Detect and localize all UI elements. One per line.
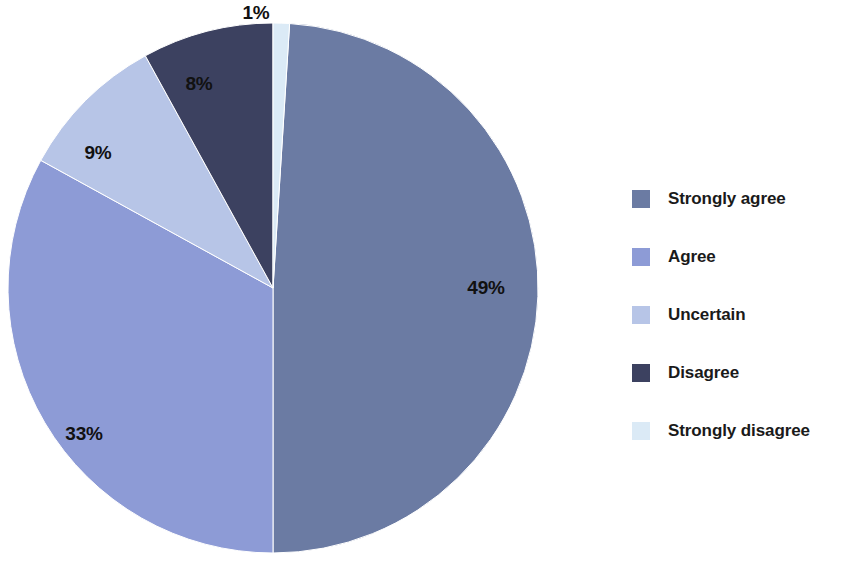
legend-swatch-icon — [632, 364, 650, 382]
pie-slices-group — [8, 23, 538, 553]
legend-item[interactable]: Uncertain — [632, 286, 837, 344]
legend-item-label: Disagree — [668, 363, 739, 383]
legend-swatch-icon — [632, 422, 650, 440]
legend-swatch-icon — [632, 190, 650, 208]
legend-item[interactable]: Disagree — [632, 344, 837, 402]
pie-slice-label: 49% — [467, 277, 504, 299]
legend-item-label: Agree — [668, 247, 716, 267]
legend-swatch-icon — [632, 306, 650, 324]
pie-chart-area: 49%33%9%8%1% — [0, 0, 580, 572]
pie-slice-label: 1% — [242, 2, 269, 24]
chart-legend: Strongly agreeAgreeUncertainDisagreeStro… — [632, 170, 837, 460]
legend-item-label: Strongly disagree — [668, 421, 810, 441]
legend-item-label: Strongly agree — [668, 189, 786, 209]
pie-chart-page: 49%33%9%8%1% Strongly agreeAgreeUncertai… — [0, 0, 843, 572]
pie-slice-label: 9% — [84, 142, 111, 164]
legend-item[interactable]: Strongly disagree — [632, 402, 837, 460]
pie-slice-label: 8% — [185, 73, 212, 95]
legend-item[interactable]: Agree — [632, 228, 837, 286]
legend-item-label: Uncertain — [668, 305, 746, 325]
legend-swatch-icon — [632, 248, 650, 266]
legend-item[interactable]: Strongly agree — [632, 170, 837, 228]
pie-slice-label: 33% — [65, 423, 102, 445]
